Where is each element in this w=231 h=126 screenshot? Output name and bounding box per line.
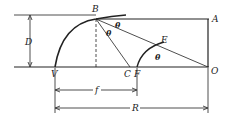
theta-angle-2: θ: [106, 28, 112, 38]
theta-angle-1: θ: [115, 20, 121, 30]
label-E: E: [160, 35, 168, 45]
label-C: C: [124, 69, 131, 79]
label-D: D: [24, 37, 32, 47]
label-A: A: [211, 14, 219, 24]
theta-angle-3: θ: [155, 52, 161, 62]
label-B: B: [91, 4, 99, 14]
label-F: F: [133, 69, 141, 79]
label-V: V: [51, 69, 59, 79]
geometry-diagram: B A E O V C F D f R θ θ θ: [0, 0, 231, 126]
label-O: O: [211, 66, 219, 76]
label-R: R: [131, 103, 139, 113]
